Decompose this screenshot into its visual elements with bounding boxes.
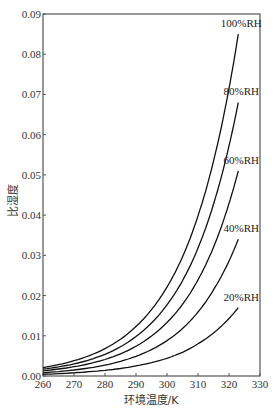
curve-label: 100%RH [221,17,262,29]
y-tick-label: 0.05 [22,169,42,181]
y-tick-label: 0.06 [22,129,42,141]
y-tick-label: 0.03 [22,249,42,261]
x-tick-label: 320 [221,378,238,390]
x-tick-label: 310 [190,378,207,390]
plot-frame [43,14,260,376]
x-tick-label: 290 [128,378,145,390]
y-tick-label: 0.01 [22,330,41,342]
curve-60pctrh [43,171,238,371]
y-tick-label: 0.08 [22,48,42,60]
specific-humidity-chart: 2602702802903003103203300.000.010.020.03… [0,0,277,410]
y-axis-title: 比湿度 [6,184,20,217]
y-tick-label: 0.00 [22,370,42,382]
y-tick-label: 0.02 [22,290,41,302]
curve-label: 60%RH [224,154,260,166]
x-tick-label: 330 [252,378,269,390]
x-tick-label: 270 [66,378,83,390]
x-axis-title: 环境温度/K [124,393,180,407]
y-tick-label: 0.09 [22,8,42,20]
curve-80pctrh [43,103,238,370]
curve-label: 80%RH [224,85,260,97]
curve-label: 20%RH [224,291,260,303]
curve-100pctrh [43,34,238,368]
y-tick-label: 0.04 [22,209,42,221]
x-tick-label: 300 [159,378,176,390]
plot-area: 2602702802903003103203300.000.010.020.03… [22,8,269,390]
x-tick-label: 280 [97,378,114,390]
curve-label: 40%RH [224,222,260,234]
y-tick-label: 0.07 [22,88,42,100]
